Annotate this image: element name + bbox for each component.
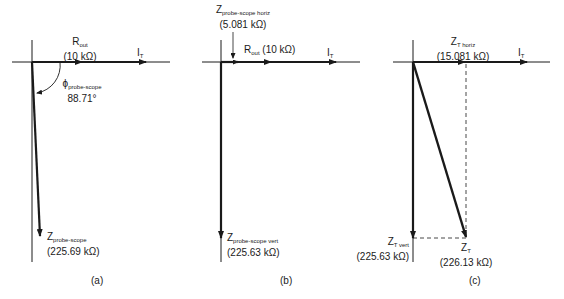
phi-angle-arc bbox=[37, 62, 60, 93]
zt-vert-label-c: ZT vert (225.63 kΩ) bbox=[353, 236, 409, 262]
panel-b bbox=[202, 32, 360, 262]
zt-label-c: ZT (226.13 kΩ) bbox=[438, 242, 494, 268]
caption-c: (c) bbox=[469, 275, 481, 286]
zt-vector bbox=[413, 62, 466, 237]
panel-c bbox=[393, 40, 550, 262]
caption-b: (b) bbox=[280, 275, 292, 286]
z-probe-scope-label-a: Zprobe-scope (225.69 kΩ) bbox=[47, 231, 100, 257]
rout-label-a: Rout (10 kΩ) bbox=[58, 36, 102, 62]
it-label-a: IT bbox=[137, 47, 143, 62]
z-vert-label-b: Zprobe-scope vert (225.63 kΩ) bbox=[227, 232, 280, 258]
panel-a bbox=[12, 40, 170, 262]
z-probe-scope-vector bbox=[32, 62, 40, 236]
caption-a: (a) bbox=[91, 275, 103, 286]
rout-label-b: Rout (10 kΩ) bbox=[244, 44, 295, 59]
phi-label-a: ϕprobe-scope 88.71° bbox=[58, 78, 106, 104]
it-label-c: IT bbox=[518, 47, 524, 62]
z-horiz-label-b: Zprobe-scope horiz (5.081 kΩ) bbox=[203, 4, 283, 30]
zt-horiz-label-c: ZT horiz (15.081 kΩ) bbox=[433, 36, 493, 62]
it-label-b: IT bbox=[327, 47, 333, 62]
